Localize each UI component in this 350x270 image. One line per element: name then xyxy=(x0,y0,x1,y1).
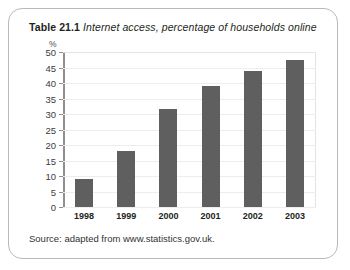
bar-2001 xyxy=(202,86,220,207)
y-tick-label: 5 xyxy=(51,186,56,197)
bar-slot xyxy=(147,52,189,207)
x-tick-label-1999: 1999 xyxy=(105,211,147,221)
caption-text: Internet access, percentage of household… xyxy=(83,21,317,33)
x-tick-label-2003: 2003 xyxy=(274,211,316,221)
bar-slot xyxy=(63,52,105,207)
bar-2002 xyxy=(244,71,262,207)
bar-slot xyxy=(274,52,316,207)
figure-frame: Table 21.1Internet access, percentage of… xyxy=(8,8,338,259)
y-tick-label: 0 xyxy=(51,202,56,213)
bar-slot xyxy=(190,52,232,207)
y-tick-mark xyxy=(59,207,63,208)
y-tick-label: 50 xyxy=(45,47,56,58)
y-tick-label: 20 xyxy=(45,140,56,151)
y-tick-label: 30 xyxy=(45,109,56,120)
source-note: Source: adapted from www.statistics.gov.… xyxy=(29,233,215,244)
x-tick-label-1998: 1998 xyxy=(63,211,105,221)
gridline xyxy=(63,207,316,208)
y-tick-label: 40 xyxy=(45,78,56,89)
y-tick-label: 10 xyxy=(45,171,56,182)
bar-slot xyxy=(105,52,147,207)
x-tick-label-2002: 2002 xyxy=(232,211,274,221)
y-tick-label: 45 xyxy=(45,62,56,73)
bar-series xyxy=(63,52,316,207)
caption-label: Table 21.1 xyxy=(29,21,80,33)
plot-area: 50454035302520151050 xyxy=(63,52,316,207)
y-tick-label: 25 xyxy=(45,124,56,135)
x-axis-labels: 199819992000200120022003 xyxy=(63,211,316,221)
y-tick-label: 35 xyxy=(45,93,56,104)
chart-area: % 50454035302520151050 19981999200020012… xyxy=(27,39,327,227)
x-tick-label-2001: 2001 xyxy=(190,211,232,221)
figure-caption: Table 21.1Internet access, percentage of… xyxy=(29,21,317,33)
x-tick-label-2000: 2000 xyxy=(147,211,189,221)
y-tick-label: 15 xyxy=(45,155,56,166)
bar-1998 xyxy=(75,179,93,207)
bar-2003 xyxy=(286,60,304,207)
bar-2000 xyxy=(159,109,177,207)
bar-slot xyxy=(232,52,274,207)
bar-1999 xyxy=(117,151,135,207)
